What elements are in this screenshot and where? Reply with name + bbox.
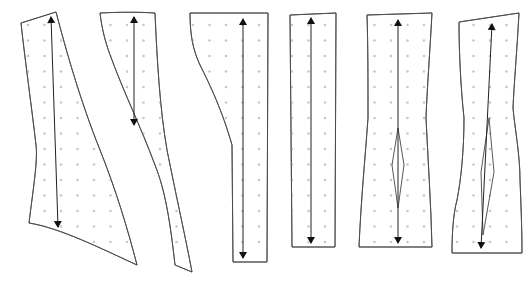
piece-outline bbox=[190, 13, 268, 262]
piece-outline bbox=[359, 13, 432, 247]
piece-1 bbox=[21, 12, 524, 265]
pattern-pieces-diagram bbox=[0, 0, 531, 290]
piece-outline bbox=[290, 13, 336, 247]
